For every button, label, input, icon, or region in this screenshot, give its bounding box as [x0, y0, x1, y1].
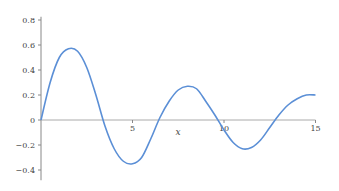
- x-tick-label: 5: [130, 124, 135, 133]
- x-axis-label: x: [175, 127, 180, 137]
- y-tick-label: −0.2: [16, 141, 35, 150]
- y-tick-label: 0.6: [22, 41, 35, 50]
- y-tick-label: 0.2: [22, 91, 35, 100]
- axes: [41, 17, 316, 181]
- line-chart: −0.4−0.200.20.40.60.851015 x: [0, 0, 339, 191]
- y-tick-label: 0: [30, 116, 35, 125]
- y-tick-label: 0.8: [22, 16, 35, 25]
- y-tick-label: 0.4: [22, 66, 35, 75]
- data-line: [41, 48, 316, 164]
- x-tick-label: 15: [310, 124, 320, 133]
- y-tick-label: −0.4: [16, 166, 35, 175]
- tick-labels: −0.4−0.200.20.40.60.851015: [16, 16, 321, 175]
